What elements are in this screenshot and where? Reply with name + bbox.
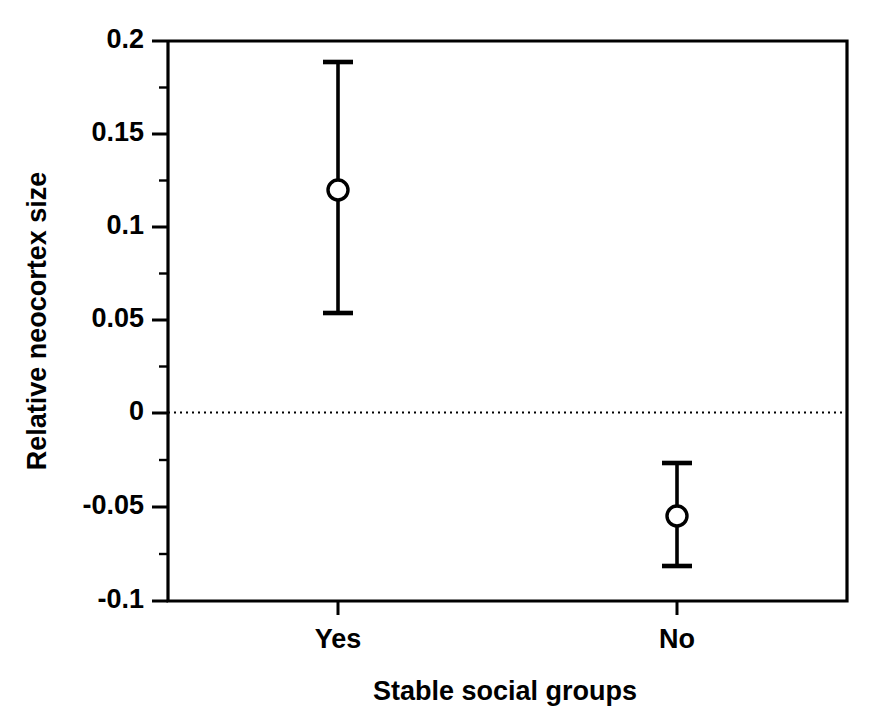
axes-frame-path — [168, 41, 847, 601]
y-axis-major-ticks — [152, 41, 168, 601]
y-tick-label-5: -0.05 — [82, 490, 144, 520]
data-point-group-no[interactable] — [662, 463, 692, 566]
error-bar-plot: 0.2 0.15 0.1 0.05 0 -0.05 -0.1 Yes No — [0, 0, 871, 724]
plot-frame — [168, 41, 847, 601]
y-tick-label-6: -0.1 — [97, 584, 144, 614]
x-axis-tick-labels: Yes No — [315, 624, 695, 654]
data-point-group-yes[interactable] — [323, 62, 353, 313]
figure-container: 0.2 0.15 0.1 0.05 0 -0.05 -0.1 Yes No — [0, 0, 871, 724]
y-tick-label-1: 0.15 — [91, 117, 144, 147]
x-tick-label-no: No — [659, 624, 695, 654]
x-axis-title: Stable social groups — [373, 676, 637, 706]
data-marker-no[interactable] — [667, 506, 687, 526]
y-tick-label-0: 0.2 — [106, 24, 144, 54]
y-tick-label-3: 0.05 — [91, 303, 144, 333]
x-tick-label-yes: Yes — [315, 624, 362, 654]
x-axis-ticks — [338, 601, 677, 615]
y-axis-tick-labels: 0.2 0.15 0.1 0.05 0 -0.05 -0.1 — [82, 24, 144, 614]
y-tick-label-4: 0 — [129, 396, 144, 426]
data-marker-yes[interactable] — [328, 180, 348, 200]
y-tick-label-2: 0.1 — [106, 210, 144, 240]
y-axis-title: Relative neocortex size — [22, 172, 52, 471]
